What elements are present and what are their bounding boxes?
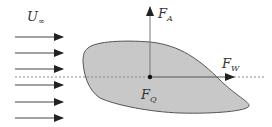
drag-force-label: FW — [222, 57, 239, 73]
lift-force-label: FA — [158, 7, 173, 23]
force-point-label: FQ — [141, 88, 157, 104]
force-point-dot — [148, 75, 152, 79]
diagram-canvas: U∞ FA FW FQ — [0, 0, 272, 127]
freestream-velocity-label: U∞ — [27, 10, 45, 26]
